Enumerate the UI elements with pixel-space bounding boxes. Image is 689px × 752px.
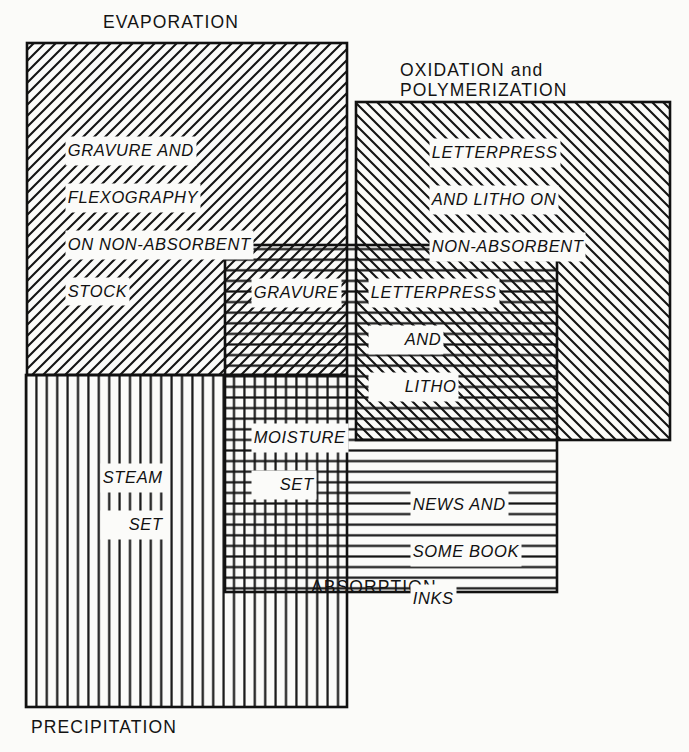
zone-line: GRAVURE AND: [68, 139, 194, 162]
zone-line: GRAVURE: [254, 281, 339, 304]
zone-line: LITHO: [371, 375, 457, 398]
zone-line: AND: [371, 328, 442, 351]
venn-diagram-svg: [0, 0, 689, 752]
zone-line: STOCK: [68, 280, 128, 303]
zone-label-steam-set: STEAM SET: [82, 443, 163, 560]
zone-line: LETTERPRESS: [371, 281, 497, 304]
zone-line: MOISTURE: [254, 426, 346, 449]
caption-oxidation: OXIDATION and POLYMERIZATION: [400, 60, 567, 101]
zone-line: SET: [254, 473, 314, 496]
zone-label-gravure: GRAVURE: [233, 258, 339, 328]
zone-label-letterpress-and-litho: LETTERPRESS AND LITHO: [350, 258, 497, 422]
zone-line: SET: [103, 513, 163, 536]
zone-line: ON NON-ABSORBENT: [68, 233, 251, 256]
zone-line: INKS: [413, 587, 454, 610]
zone-label-gravure-flexography: GRAVURE AND FLEXOGRAPHY ON NON-ABSORBENT…: [47, 116, 251, 327]
zone-line: LETTERPRESS: [432, 141, 558, 164]
diagram-canvas: EVAPORATION OXIDATION and POLYMERIZATION…: [0, 0, 689, 752]
zone-line: SOME BOOK: [413, 540, 519, 563]
caption-evaporation: EVAPORATION: [103, 12, 239, 32]
zone-label-moisture-set: MOISTURE SET: [233, 403, 346, 520]
zone-line: STEAM: [103, 466, 163, 489]
zone-label-news-and-some-book-inks: NEWS AND SOME BOOK INKS: [392, 470, 519, 634]
caption-precipitation: PRECIPITATION: [31, 717, 177, 737]
zone-line: NEWS AND: [413, 493, 506, 516]
zone-line: AND LITHO ON: [432, 188, 557, 211]
zone-line: FLEXOGRAPHY: [68, 186, 198, 209]
zone-line: NON-ABSORBENT: [432, 235, 584, 258]
